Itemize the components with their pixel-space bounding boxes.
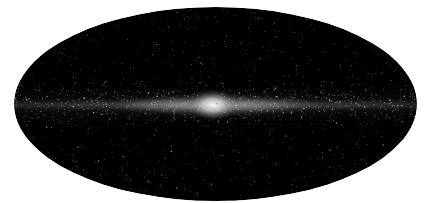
galactic-bulge <box>185 88 241 122</box>
milky-way-all-sky-map <box>0 0 431 203</box>
